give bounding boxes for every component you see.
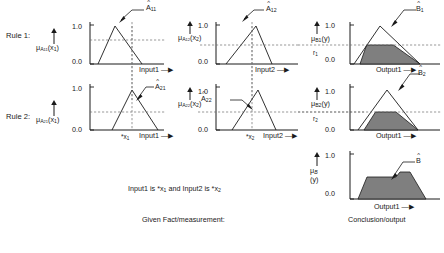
rule2-consequent-ybottom: 0.0 — [325, 126, 335, 133]
rule2-antecedent1-yaxis-label: μA21(x1) — [36, 116, 59, 124]
rule2-antecedent1-set-label: ^A21 — [155, 83, 166, 91]
rule2-antecedent2-yaxis-label: μA22(x2) — [178, 100, 201, 108]
given-fact-caption: Given Fact/measurement: — [142, 216, 225, 223]
conclusion-xaxis-label: Output1 —▶ — [374, 203, 414, 210]
rule1-consequent-ybottom: 0.0 — [325, 56, 335, 63]
rule1-antecedent1-yaxis-arrow — [49, 28, 59, 44]
rule1-consequent-yaxis-arrow — [312, 21, 322, 34]
rule1-antecedent1-ytop: 1.0 — [72, 23, 82, 30]
arrow-right-icon: —▶ — [277, 65, 289, 74]
given-fact-statement: Input1 is *x1 and Input2 is *x2 — [128, 185, 221, 193]
rule1-antecedent2-set-label: ^A12 — [266, 5, 277, 13]
rule1-consequent-ytop: 1.0 — [325, 22, 335, 29]
rule1-antecedent2-xaxis-label: Input2 —▶ — [255, 66, 289, 73]
rule1-antecedent1-plot — [88, 22, 166, 70]
rule2-antecedent2-set-label: ^A22 — [201, 95, 212, 103]
conclusion-ytop: 1.0 — [325, 152, 335, 159]
rule1-antecedent2-yaxis-label: μA12(x2) — [178, 34, 201, 42]
conclusion-yaxis-label-arg: (y) — [310, 176, 318, 183]
rule2-consequent-set-label: ^B2 — [418, 69, 426, 77]
rule1-antecedent2-plot — [214, 22, 300, 70]
rule1-antecedent2-ybottom: 0.0 — [198, 58, 208, 65]
rule1-antecedent1-yaxis-label: μA11(x1) — [36, 44, 59, 52]
rule1-antecedent1-set-label: ^A11 — [146, 4, 156, 12]
conclusion-caption: Conclusion/output — [348, 216, 406, 223]
rule2-antecedent2-xaxis-label: Input2 —▶ — [263, 132, 297, 139]
conclusion-set-label: ^B — [416, 157, 421, 164]
rule1-antecedent1-xaxis-label: Input1 —▶ — [139, 66, 173, 73]
rule2-antecedent1-ytop: 1.0 — [72, 85, 82, 92]
arrow-right-icon: —▶ — [404, 131, 416, 140]
conclusion-yaxis-arrow — [312, 152, 322, 166]
rule2-antecedent1-yaxis-arrow — [49, 100, 59, 116]
rule2-consequent-ytop: 1.0 — [325, 88, 335, 95]
arrow-right-icon: —▶ — [402, 202, 414, 211]
mu-arg-close: ) — [57, 43, 59, 52]
rule1-firing-level-label: r1 — [313, 49, 318, 57]
arrow-right-icon: —▶ — [285, 131, 297, 140]
rule1-antecedent2-ytop: 1.0 — [198, 22, 208, 29]
rule2-consequent-xaxis-label: Output1 —▶ — [376, 132, 416, 139]
rule2-antecedent1-ybottom: 0.0 — [72, 126, 82, 133]
rule2-label: Rule 2: — [6, 112, 30, 121]
rule1-consequent-yaxis-label: μB1(y) — [311, 35, 330, 43]
rule2-antecedent1-xaxis-label: Input1 —▶ — [139, 132, 173, 139]
rule2-antecedent2-input-marker: *x2 — [246, 133, 254, 141]
rule2-antecedent2-ybottom: 0.0 — [198, 126, 208, 133]
rule2-consequent-yaxis-label: μB2(y) — [311, 100, 330, 108]
rule2-antecedent2-set-pointer — [218, 96, 258, 114]
conclusion-ybottom: 0.0 — [325, 190, 335, 197]
fuzzy-inference-diagram: Rule 1: μA11(x1) 1.0 0.0 Input1 —▶ — [0, 0, 444, 253]
arrow-right-icon: —▶ — [161, 131, 173, 140]
rule1-antecedent1-ybottom: 0.0 — [72, 58, 82, 65]
rule1-label: Rule 1: — [6, 31, 30, 40]
rule2-firing-level-label: r2 — [313, 115, 318, 123]
rule1-consequent-set-label: ^B1 — [416, 5, 424, 13]
rule2-antecedent1-input-marker: *x1 — [121, 133, 129, 141]
arrow-right-icon: —▶ — [161, 65, 173, 74]
